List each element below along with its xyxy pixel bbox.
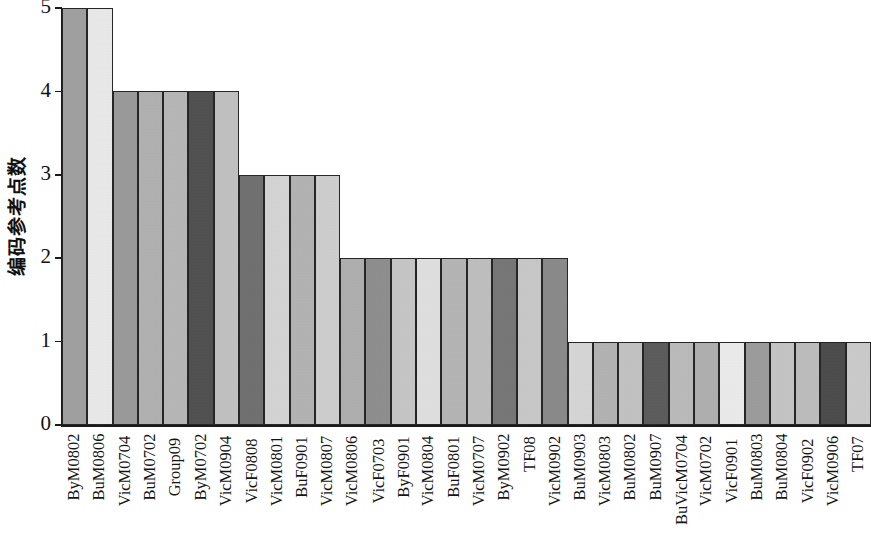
bar-texture	[114, 92, 137, 424]
bar	[264, 175, 289, 425]
x-tick-label-text: VicM0803	[596, 436, 616, 507]
bar	[745, 342, 770, 425]
bar	[820, 342, 845, 425]
x-tick-label: BuF0801	[441, 429, 466, 537]
x-tick-label-text: VicF0902	[798, 439, 818, 504]
x-tick-label-text: ByM0802	[65, 434, 85, 501]
plot-area: 012345	[62, 8, 871, 425]
bar-texture	[746, 343, 769, 424]
x-tick-label-text: BuM0803	[747, 434, 767, 501]
x-tick-label: ByM0702	[188, 429, 213, 537]
x-tick-label-text: BuM0907	[646, 434, 666, 501]
x-tick-label: VicM0704	[113, 429, 138, 537]
x-tick-label: VicM0902	[542, 429, 567, 537]
bar	[467, 258, 492, 425]
x-tick-label: VicM0801	[264, 429, 289, 537]
x-tick-label-text: VicF0808	[242, 439, 262, 504]
x-tick-label: VicM0807	[315, 429, 340, 537]
bar-texture	[215, 92, 238, 424]
x-tick-label: BuM0806	[87, 429, 112, 537]
bar-texture	[847, 343, 870, 424]
bar	[593, 342, 618, 425]
x-tick-label: VicM0806	[340, 429, 365, 537]
x-tick-label-text: ByM0902	[494, 434, 514, 501]
bar	[542, 258, 567, 425]
bar	[669, 342, 694, 425]
bar-texture	[392, 259, 415, 424]
x-tick-label-text: BuF0801	[444, 436, 464, 497]
x-tick-label-text: TF08	[520, 436, 540, 472]
x-tick-label: VicF0808	[239, 429, 264, 537]
bar-texture	[341, 259, 364, 424]
x-tick-label-group: ByM0802BuM0806VicM0704BuM0702Group09ByM0…	[62, 429, 871, 539]
bar-texture	[417, 259, 440, 424]
x-tick-label-text: VicM0702	[697, 436, 717, 507]
x-tick-label: VicM0803	[593, 429, 618, 537]
bar	[391, 258, 416, 425]
bar	[239, 175, 264, 425]
y-tick-label: 2	[41, 245, 52, 267]
bar	[846, 342, 871, 425]
bar	[62, 8, 87, 425]
x-tick-label-text: VicF0901	[722, 439, 742, 504]
x-tick-label: VicF0703	[365, 429, 390, 537]
bar-texture	[265, 176, 288, 424]
bar-texture	[316, 176, 339, 424]
bar-texture	[63, 9, 86, 424]
bar-texture	[796, 343, 819, 424]
bar	[315, 175, 340, 425]
bar	[795, 342, 820, 425]
x-tick-label: VicF0901	[719, 429, 744, 537]
x-tick-label: ByM0802	[62, 429, 87, 537]
y-tick-mark: 0	[55, 424, 62, 426]
y-tick-mark: 2	[55, 257, 62, 259]
y-tick-label: 4	[41, 79, 52, 101]
x-tick-label-text: TF07	[848, 436, 868, 472]
x-tick-label: VicM0904	[214, 429, 239, 537]
x-tick-label-text: BuVicM0704	[671, 435, 691, 525]
x-tick-label: BuM0903	[568, 429, 593, 537]
x-tick-label: BuVicM0704	[669, 429, 694, 537]
x-tick-label: VicM0804	[416, 429, 441, 537]
x-tick-label: VicF0902	[795, 429, 820, 537]
bar-texture	[366, 259, 389, 424]
y-tick-mark: 5	[55, 7, 62, 9]
y-tick-label: 3	[41, 162, 52, 184]
x-tick-label-text: VicM0804	[419, 436, 439, 507]
x-tick-label-text: VicM0902	[545, 436, 565, 507]
bar-texture	[594, 343, 617, 424]
x-tick-label-text: VicM0704	[115, 436, 135, 507]
bar	[492, 258, 517, 425]
bar	[719, 342, 744, 425]
x-tick-label-text: VicF0703	[368, 439, 388, 504]
x-tick-label: VicM0906	[820, 429, 845, 537]
y-tick-mark: 1	[55, 341, 62, 343]
x-tick-label: BuM0702	[138, 429, 163, 537]
x-tick-label-text: BuM0903	[570, 434, 590, 501]
bar-texture	[644, 343, 667, 424]
x-tick-label: BuM0907	[643, 429, 668, 537]
bar-texture	[670, 343, 693, 424]
y-tick-label: 1	[41, 329, 52, 351]
bar	[643, 342, 668, 425]
bar	[517, 258, 542, 425]
bar-texture	[821, 343, 844, 424]
bar-texture	[164, 92, 187, 424]
bar	[568, 342, 593, 425]
x-tick-label: ByM0902	[492, 429, 517, 537]
x-tick-label-text: VicM0801	[267, 436, 287, 507]
x-tick-label-text: ByF0901	[393, 436, 413, 497]
y-tick-mark: 4	[55, 91, 62, 93]
bar-chart: 编码参考点数 012345 ByM0802BuM0806VicM0704BuM0…	[0, 0, 871, 539]
bar-texture	[240, 176, 263, 424]
bar	[770, 342, 795, 425]
bar	[188, 91, 213, 425]
bar	[365, 258, 390, 425]
bar	[441, 258, 466, 425]
x-tick-label: BuM0802	[618, 429, 643, 537]
bar-texture	[771, 343, 794, 424]
y-axis-label-text: 编码参考点数	[2, 155, 29, 275]
x-tick-label: BuM0803	[745, 429, 770, 537]
bar-texture	[695, 343, 718, 424]
bar	[138, 91, 163, 425]
